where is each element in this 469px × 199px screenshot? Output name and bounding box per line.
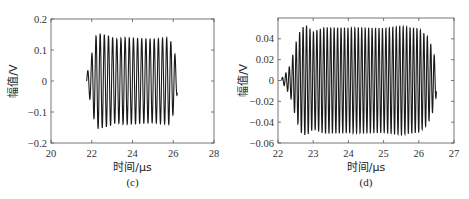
x-tick-label: 24: [127, 148, 138, 159]
y-tick-label: −0.2: [28, 138, 47, 149]
y-tick-label: 0.02: [256, 54, 274, 65]
x-tick-label: 22: [87, 148, 98, 159]
x-tick-label: 27: [449, 148, 460, 159]
y-tick-label: 0: [42, 76, 47, 87]
x-tick-label: 28: [209, 148, 220, 159]
y-tick-label: −0.02: [250, 96, 274, 107]
chart-c-svg: 2022242628−0.2−0.100.10.2时间/μs幅值/V(c): [0, 0, 235, 199]
x-tick-label: 20: [46, 148, 57, 159]
panel-caption: (c): [126, 176, 139, 189]
x-tick-label: 23: [308, 148, 319, 159]
y-axis-label: 幅值/V: [237, 63, 250, 97]
x-tick-label: 24: [343, 148, 354, 159]
y-tick-label: 0.2: [34, 14, 47, 25]
y-tick-label: −0.04: [250, 117, 275, 128]
x-axis-label: 时间/μs: [347, 161, 386, 174]
chart-panel-d: 222324252627−0.06−0.04−0.0200.020.04时间/μ…: [235, 0, 469, 199]
x-tick-label: 26: [168, 148, 179, 159]
x-tick-label: 26: [414, 148, 425, 159]
y-tick-label: −0.1: [28, 107, 47, 118]
chart-panel-c: 2022242628−0.2−0.100.10.2时间/μs幅值/V(c): [0, 0, 235, 199]
signal-trace: [282, 26, 437, 135]
y-tick-label: 0.1: [34, 45, 47, 56]
y-tick-label: 0.04: [256, 33, 275, 44]
y-tick-label: −0.06: [250, 138, 274, 149]
y-tick-label: 0: [269, 75, 274, 86]
y-axis-label: 幅值/V: [7, 64, 20, 98]
x-tick-label: 22: [273, 148, 284, 159]
signal-trace: [87, 34, 178, 129]
chart-d-svg: 222324252627−0.06−0.04−0.0200.020.04时间/μ…: [235, 0, 469, 199]
x-tick-label: 25: [378, 148, 389, 159]
panel-caption: (d): [360, 176, 373, 189]
x-axis-label: 时间/μs: [113, 161, 152, 174]
